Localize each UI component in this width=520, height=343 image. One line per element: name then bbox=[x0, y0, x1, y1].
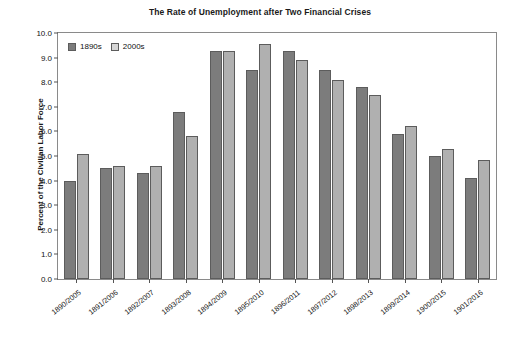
x-axis-tick-mark bbox=[113, 279, 114, 283]
bar-2000s-1901-2016 bbox=[478, 160, 490, 279]
bar-1890s-1898-2013 bbox=[356, 87, 368, 279]
bar-1890s-1894-2009 bbox=[210, 51, 222, 279]
x-axis-tick-mark bbox=[368, 279, 369, 283]
x-axis-tick-mark bbox=[186, 279, 187, 283]
chart-title: The Rate of Unemployment after Two Finan… bbox=[0, 7, 520, 17]
bar-2000s-1897-2012 bbox=[332, 80, 344, 279]
bar-group bbox=[58, 33, 95, 279]
bar-2000s-1896-2011 bbox=[296, 60, 308, 279]
bar-1890s-1897-2012 bbox=[319, 70, 331, 279]
bar-group bbox=[350, 33, 387, 279]
bar-group bbox=[131, 33, 168, 279]
bar-1890s-1900-2015 bbox=[429, 156, 441, 279]
bar-2000s-1892-2007 bbox=[150, 166, 162, 279]
x-axis-tick-mark bbox=[76, 279, 77, 283]
bar-1890s-1892-2007 bbox=[137, 173, 149, 279]
y-axis-tick-mark bbox=[54, 156, 58, 157]
x-axis-tick-mark bbox=[149, 279, 150, 283]
bar-1890s-1899-2014 bbox=[392, 134, 404, 279]
y-axis-tick-mark bbox=[54, 57, 58, 58]
bar-1890s-1891-2006 bbox=[100, 168, 112, 279]
x-axis-tick-mark bbox=[295, 279, 296, 283]
bar-group bbox=[314, 33, 351, 279]
y-axis-tick-mark bbox=[54, 279, 58, 280]
bars-layer bbox=[58, 33, 496, 279]
bar-2000s-1899-2014 bbox=[405, 126, 417, 279]
bar-group bbox=[168, 33, 205, 279]
bar-2000s-1900-2015 bbox=[442, 149, 454, 279]
bar-1890s-1896-2011 bbox=[283, 51, 295, 279]
y-axis-tick-mark bbox=[54, 82, 58, 83]
y-axis-title: Percent of the Civilian Labor Force bbox=[36, 65, 45, 265]
x-axis-tick-mark bbox=[405, 279, 406, 283]
x-axis-tick-mark bbox=[332, 279, 333, 283]
plot-area: 1890s 2000s 0.01.02.03.04.05.06.07.08.09… bbox=[57, 32, 497, 280]
bar-2000s-1894-2009 bbox=[223, 51, 235, 279]
bar-2000s-1895-2010 bbox=[259, 44, 271, 279]
x-axis-tick-mark bbox=[222, 279, 223, 283]
bar-2000s-1891-2006 bbox=[113, 166, 125, 279]
bar-1890s-1895-2010 bbox=[246, 70, 258, 279]
bar-2000s-1898-2013 bbox=[369, 95, 381, 280]
bar-group bbox=[277, 33, 314, 279]
bar-group bbox=[241, 33, 278, 279]
y-axis-tick-mark bbox=[54, 33, 58, 34]
bar-2000s-1890-2005 bbox=[77, 154, 89, 279]
x-axis-tick-mark bbox=[441, 279, 442, 283]
bar-2000s-1893-2008 bbox=[186, 136, 198, 279]
bar-group bbox=[95, 33, 132, 279]
bar-group bbox=[204, 33, 241, 279]
bar-group bbox=[387, 33, 424, 279]
y-axis-tick-mark bbox=[54, 205, 58, 206]
bar-1890s-1901-2016 bbox=[465, 178, 477, 279]
bar-group bbox=[423, 33, 460, 279]
x-axis-tick-mark bbox=[259, 279, 260, 283]
y-axis-tick-mark bbox=[54, 180, 58, 181]
y-axis-tick-mark bbox=[54, 254, 58, 255]
y-axis-tick-mark bbox=[54, 106, 58, 107]
y-axis-tick-mark bbox=[54, 131, 58, 132]
bar-group bbox=[460, 33, 497, 279]
x-axis-tick-mark bbox=[478, 279, 479, 283]
unemployment-bar-chart: The Rate of Unemployment after Two Finan… bbox=[0, 0, 520, 343]
bar-1890s-1893-2008 bbox=[173, 112, 185, 279]
y-axis-tick-mark bbox=[54, 229, 58, 230]
bar-1890s-1890-2005 bbox=[64, 181, 76, 279]
